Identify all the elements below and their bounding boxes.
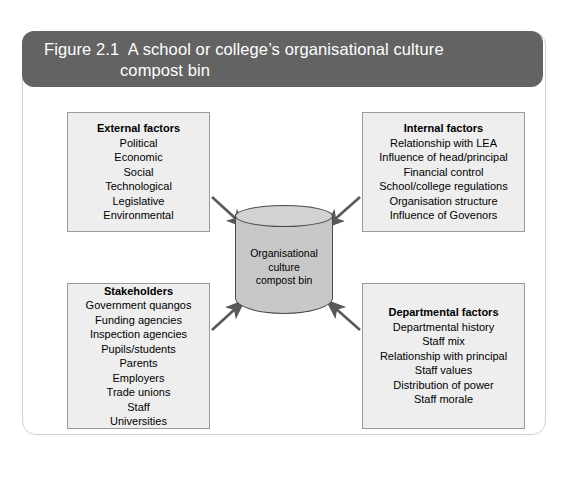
box-stakeholders-item: Government quangos — [86, 298, 192, 313]
cylinder-label-line-3: compost bin — [235, 274, 333, 288]
box-stakeholders-item: Pupils/students — [101, 342, 176, 357]
figure-title-line-1: Figure 2.1 A school or college’s organis… — [44, 39, 527, 60]
compost-bin-cylinder: Organisational culture compost bin — [235, 205, 333, 323]
figure-container: Figure 2.1 A school or college’s organis… — [0, 0, 570, 477]
box-departmental-factors-title: Departmental factors — [388, 305, 498, 320]
box-internal-factors-item: Influence of Govenors — [390, 208, 498, 223]
box-internal-factors-title: Internal factors — [404, 121, 483, 136]
box-departmental-factors-item: Departmental history — [393, 320, 495, 335]
figure-title-bar: Figure 2.1 A school or college’s organis… — [22, 31, 543, 87]
box-stakeholders: Stakeholders Government quangos Funding … — [67, 283, 210, 429]
box-stakeholders-title: Stakeholders — [104, 284, 173, 299]
box-departmental-factors-item: Relationship with principal — [380, 349, 507, 364]
figure-title-line-2: compost bin — [44, 60, 527, 81]
box-internal-factors: Internal factors Relationship with LEA I… — [362, 112, 525, 232]
box-stakeholders-item: Inspection agencies — [90, 327, 187, 342]
box-stakeholders-item: Trade unions — [107, 385, 171, 400]
box-departmental-factors-item: Distribution of power — [393, 378, 493, 393]
box-internal-factors-item: School/college regulations — [379, 179, 507, 194]
box-stakeholders-item: Funding agencies — [95, 313, 182, 328]
box-internal-factors-item: Relationship with LEA — [390, 136, 497, 151]
box-internal-factors-item: Financial control — [403, 165, 483, 180]
box-stakeholders-item: Universities — [110, 414, 167, 429]
cylinder-top-ellipse — [235, 205, 333, 227]
box-external-factors: External factors Political Economic Soci… — [67, 112, 210, 232]
box-external-factors-item: Legislative — [113, 194, 165, 209]
box-internal-factors-item: Influence of head/principal — [379, 150, 507, 165]
box-stakeholders-item: Staff — [127, 400, 149, 415]
box-departmental-factors-item: Staff values — [415, 363, 472, 378]
box-departmental-factors-item: Staff mix — [422, 334, 465, 349]
box-internal-factors-item: Organisation structure — [389, 194, 497, 209]
box-stakeholders-item: Parents — [120, 356, 158, 371]
box-external-factors-title: External factors — [97, 121, 180, 136]
box-external-factors-item: Technological — [105, 179, 172, 194]
diagram-canvas: External factors Political Economic Soci… — [22, 87, 546, 435]
box-departmental-factors: Departmental factors Departmental histor… — [362, 283, 525, 429]
box-external-factors-item: Economic — [114, 150, 162, 165]
box-stakeholders-item: Employers — [113, 371, 165, 386]
cylinder-label-line-2: culture — [235, 261, 333, 275]
box-external-factors-item: Political — [120, 136, 158, 151]
cylinder-label-line-1: Organisational — [235, 247, 333, 261]
box-departmental-factors-item: Staff morale — [414, 392, 473, 407]
box-external-factors-item: Environmental — [103, 208, 173, 223]
cylinder-label: Organisational culture compost bin — [235, 247, 333, 288]
box-external-factors-item: Social — [124, 165, 154, 180]
